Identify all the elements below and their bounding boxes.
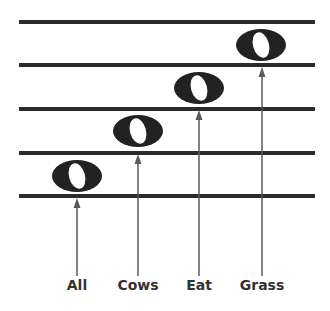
label-all: All <box>47 277 107 293</box>
staff-diagram <box>0 0 330 311</box>
arrows <box>74 67 266 276</box>
arrowhead-icon <box>74 198 81 208</box>
whole-note-icon-cows <box>113 115 163 147</box>
label-cows: Cows <box>108 277 168 293</box>
label-grass: Grass <box>232 277 292 293</box>
whole-note-icon-eat <box>174 72 224 104</box>
label-eat: Eat <box>169 277 229 293</box>
arrowhead-icon <box>135 154 142 164</box>
arrowhead-icon <box>196 110 203 120</box>
whole-note-icon-grass <box>236 29 286 61</box>
whole-note-icon-all <box>52 160 102 192</box>
arrowhead-icon <box>259 67 266 77</box>
